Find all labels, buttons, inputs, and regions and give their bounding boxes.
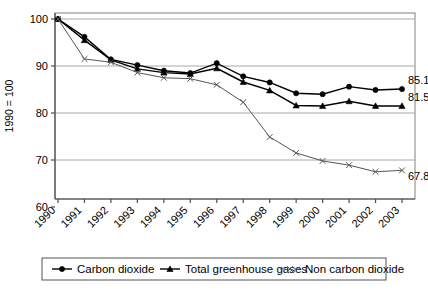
x-tick-label: 1993 bbox=[111, 204, 137, 230]
marker-circle bbox=[59, 266, 64, 271]
series-end-label: 85.1 bbox=[408, 74, 428, 86]
marker-circle bbox=[294, 91, 299, 96]
x-tick-label: 1996 bbox=[190, 204, 216, 230]
legend-label: Total greenhouse gases bbox=[185, 263, 307, 275]
legend-label: Carbon dioxide bbox=[77, 263, 154, 275]
x-tick-label: 1995 bbox=[164, 204, 190, 230]
y-tick-label: 70 bbox=[36, 154, 48, 166]
line-chart: 6070809010019901991199219931994199519961… bbox=[0, 0, 428, 292]
y-tick-label: 90 bbox=[36, 60, 48, 72]
x-tick-label: 2002 bbox=[349, 204, 375, 230]
marker-circle bbox=[320, 92, 325, 97]
x-tick-label: 1997 bbox=[217, 204, 243, 230]
x-tick-label: 1994 bbox=[137, 204, 163, 230]
x-tick-label: 2001 bbox=[323, 204, 349, 230]
y-axis-title: 1990 = 100 bbox=[3, 79, 15, 132]
y-tick-label: 100 bbox=[30, 13, 48, 25]
series-end-label: 67.8 bbox=[408, 170, 428, 182]
x-tick-label: 2003 bbox=[376, 204, 402, 230]
marker-circle bbox=[346, 84, 351, 89]
x-tick-label: 1999 bbox=[270, 204, 296, 230]
x-tick-label: 1992 bbox=[85, 204, 111, 230]
marker-circle bbox=[399, 86, 404, 91]
x-tick-label: 1991 bbox=[58, 204, 84, 230]
marker-circle bbox=[241, 74, 246, 79]
series-end-label: 81.5 bbox=[408, 91, 428, 103]
x-tick-label: 1998 bbox=[243, 204, 269, 230]
marker-circle bbox=[373, 87, 378, 92]
x-tick-label: 2000 bbox=[296, 204, 322, 230]
chart-container: 6070809010019901991199219931994199519961… bbox=[0, 0, 428, 292]
plot-area-frame bbox=[55, 13, 415, 199]
legend-label: Non carbon dioxide bbox=[305, 263, 404, 275]
y-tick-label: 80 bbox=[36, 107, 48, 119]
marker-circle bbox=[267, 80, 272, 85]
